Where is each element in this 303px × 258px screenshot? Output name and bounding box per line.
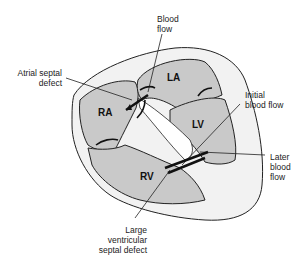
- label-later-blood-flow: Later blood flow: [270, 152, 291, 182]
- label-atrial-septal-defect: Atrial septal defect: [14, 68, 62, 88]
- label-rv: RV: [140, 171, 154, 182]
- label-blood-flow: Blood flow: [157, 14, 179, 34]
- label-large-vsd: Large ventricular septal defect: [85, 225, 147, 255]
- heart-diagram: RA LA LV RV Blood flow Atrial septal def…: [0, 0, 303, 258]
- heart-illustration: [0, 0, 303, 258]
- label-la: LA: [167, 72, 180, 83]
- label-initial-blood-flow: Initial blood flow: [245, 90, 283, 110]
- label-lv: LV: [192, 119, 204, 130]
- label-ra: RA: [98, 107, 112, 118]
